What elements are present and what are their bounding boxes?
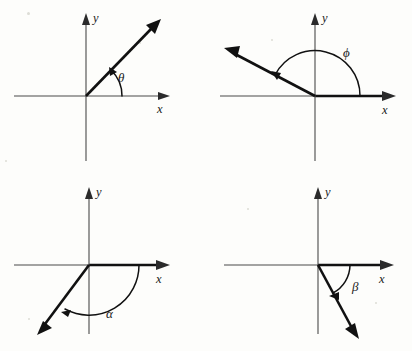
- angle-diagram-beta: x y β: [206, 176, 412, 351]
- x-axis-arrowhead: [156, 260, 170, 270]
- x-axis-label: x: [378, 272, 385, 286]
- y-axis-arrowhead: [85, 187, 93, 199]
- angle-label-beta: β: [351, 279, 359, 294]
- y-axis-arrowhead: [311, 13, 319, 25]
- angle-label-phi: ϕ: [343, 45, 350, 60]
- angle-arc: [333, 265, 350, 293]
- y-axis-label: y: [94, 185, 102, 199]
- x-axis-label: x: [156, 102, 163, 116]
- y-axis-label: y: [323, 185, 331, 199]
- x-axis-label: x: [381, 103, 388, 117]
- terminal-ray-arrowhead: [37, 321, 52, 335]
- terminal-ray: [86, 28, 152, 96]
- angle-diagram-alpha: x y α: [0, 176, 206, 351]
- angle-label-alpha: α: [106, 306, 114, 321]
- y-axis-arrowhead: [82, 13, 90, 25]
- figure-sheet: x y θ x y ϕ: [0, 0, 412, 351]
- terminal-ray-arrowhead: [345, 323, 359, 339]
- angle-arc-arrowhead: [61, 310, 71, 317]
- y-axis-label: y: [320, 11, 328, 25]
- x-axis-label: x: [155, 272, 162, 286]
- x-axis-arrowhead: [380, 260, 394, 270]
- y-axis-label: y: [91, 11, 99, 25]
- x-axis-arrowhead: [382, 91, 396, 101]
- y-axis-arrowhead: [314, 187, 322, 199]
- angle-diagram-phi: x y ϕ: [206, 0, 412, 175]
- angle-diagram-theta: x y θ: [0, 0, 206, 175]
- angle-arc: [65, 265, 139, 315]
- x-axis-arrowhead: [158, 92, 170, 100]
- angle-label-theta: θ: [118, 70, 125, 85]
